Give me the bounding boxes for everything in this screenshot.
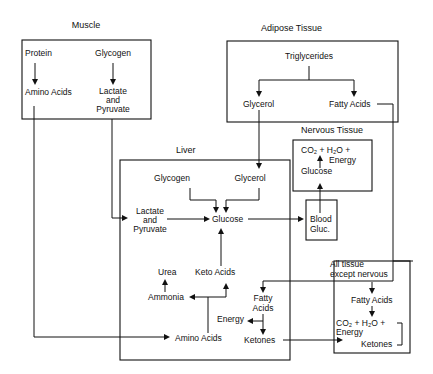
connector-line [226, 188, 259, 208]
liver-energy: Energy [217, 314, 245, 324]
all-tissue-section: All tissue except nervous Fatty Acids CO… [330, 259, 410, 353]
nervous-products: CO₂ + H₂O + [301, 145, 350, 155]
arrowhead-icon [218, 228, 224, 234]
all-tissue-energy: Energy [336, 327, 364, 337]
liver-glucose: Glucose [212, 214, 243, 224]
liver-ammonia: Ammonia [148, 292, 184, 302]
muscle-title: Muscle [72, 20, 101, 30]
arrowhead-icon [162, 279, 168, 285]
arrowhead-icon [164, 334, 170, 340]
arrowhead-icon [256, 91, 262, 97]
arrowhead-icon [337, 337, 343, 343]
metabolism-diagram: Muscle Protein Glycogen Amino Acids Lact… [0, 0, 433, 374]
connector-line [190, 188, 216, 208]
liver-glycerol: Glycerol [234, 173, 265, 183]
arrowhead-icon [204, 216, 210, 222]
bracket-line [397, 323, 402, 345]
all-tissue-title-2: except nervous [330, 269, 388, 279]
all-tissue-fatty-acids: Fatty Acids [351, 295, 393, 305]
liver-glycogen: Glycogen [154, 173, 190, 183]
muscle-lactate-3: Pyruvate [96, 104, 130, 114]
liver-urea: Urea [158, 267, 177, 277]
adipose-glycerol: Glycerol [243, 99, 274, 109]
connector-line [112, 119, 123, 218]
adipose-section: Adipose Tissue Triglycerides Glycerol Fa… [227, 23, 398, 122]
all-tissue-ketones: Ketones [361, 339, 392, 349]
liver-lactate-3: Pyruvate [133, 224, 167, 234]
connector-line [259, 80, 354, 92]
nervous-title: Nervous Tissue [301, 125, 363, 135]
arrowhead-icon [32, 79, 38, 85]
liver-keto-acids: Keto Acids [195, 267, 235, 277]
muscle-amino-acids: Amino Acids [25, 87, 72, 97]
arrowhead-icon [317, 183, 323, 189]
blood-line-2: Gluc. [310, 224, 330, 234]
blood-line-1: Blood [310, 214, 332, 224]
liver-fatty-2: Acids [253, 303, 274, 313]
connector-line [194, 288, 226, 297]
liver-fatty-1: Fatty [254, 293, 274, 303]
arrowhead-icon [317, 155, 323, 161]
adipose-fatty-acids: Fatty Acids [329, 99, 371, 109]
arrowhead-icon [213, 207, 219, 213]
arrowhead-icon [351, 91, 357, 97]
nervous-energy: Energy [329, 155, 357, 165]
all-tissue-title-1: All tissue [330, 259, 364, 269]
adipose-title: Adipose Tissue [261, 23, 322, 33]
arrowhead-icon [247, 318, 253, 324]
liver-title: Liver [176, 145, 196, 155]
arrowhead-icon [110, 79, 116, 85]
liver-ketones: Ketones [244, 335, 275, 345]
nervous-section: Nervous Tissue CO₂ + H₂O + Energy Glucos… [293, 125, 372, 191]
muscle-glycogen: Glycogen [95, 48, 131, 58]
arrowhead-icon [369, 288, 375, 294]
blood-glucose-section: Blood Gluc. [306, 183, 337, 240]
arrowhead-icon [223, 283, 229, 289]
liver-section: Liver Glycogen Glycerol Lactate and Pyru… [120, 145, 304, 360]
liver-amino-acids: Amino Acids [175, 333, 222, 343]
arrowhead-icon [298, 216, 304, 222]
nervous-glucose: Glucose [301, 166, 332, 176]
adipose-triglycerides: Triglycerides [285, 51, 333, 61]
arrowhead-icon [223, 207, 229, 213]
muscle-protein: Protein [25, 48, 52, 58]
arrowhead-icon [369, 311, 375, 317]
arrowhead-icon [122, 215, 128, 221]
arrowhead-icon [189, 294, 195, 300]
muscle-section: Muscle Protein Glycogen Amino Acids Lact… [22, 20, 151, 119]
arrowhead-icon [256, 163, 262, 169]
